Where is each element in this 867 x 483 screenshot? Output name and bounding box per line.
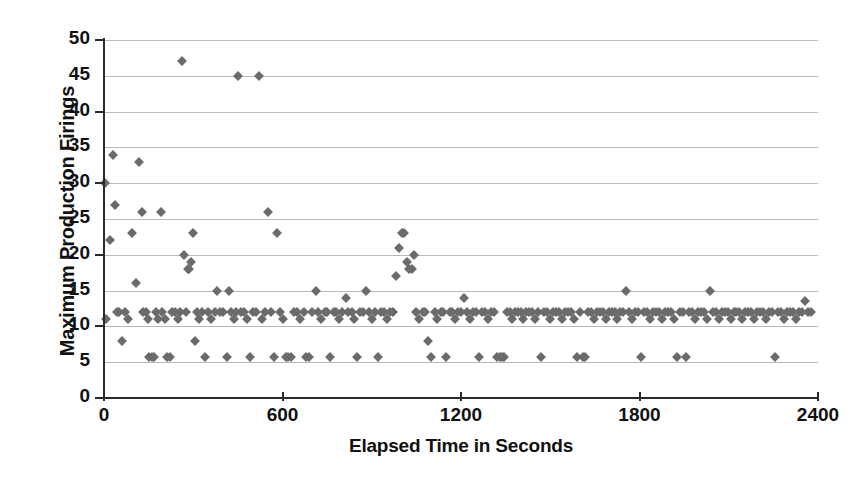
data-point — [349, 314, 359, 324]
gridline-y-25 — [104, 219, 818, 220]
data-point — [105, 236, 115, 246]
data-point — [426, 352, 436, 362]
data-point — [474, 352, 484, 362]
data-point — [143, 314, 153, 324]
data-point — [681, 352, 691, 362]
gridline-y-30 — [104, 183, 818, 184]
data-point — [269, 352, 279, 362]
x-tick-label-2400: 2400 — [783, 404, 853, 426]
x-axis-title: Elapsed Time in Seconds — [104, 435, 818, 461]
x-tick-label-0: 0 — [69, 404, 139, 426]
data-point — [179, 250, 189, 260]
data-point — [224, 286, 234, 296]
data-point — [352, 352, 362, 362]
data-point — [373, 352, 383, 362]
data-point — [131, 278, 141, 288]
gridline-y-45 — [104, 76, 818, 77]
y-tick-label-25: 25 — [44, 206, 90, 228]
data-point — [234, 71, 244, 81]
data-point — [423, 336, 433, 346]
y-tick-40 — [95, 111, 105, 113]
y-tick-label-5: 5 — [44, 349, 90, 371]
data-point — [110, 200, 120, 210]
data-point — [190, 336, 200, 346]
data-point — [569, 314, 579, 324]
data-point — [137, 207, 147, 217]
y-tick-label-30: 30 — [44, 170, 90, 192]
data-point — [800, 296, 810, 306]
data-point — [127, 228, 137, 238]
data-point — [181, 307, 191, 317]
data-point — [459, 293, 469, 303]
x-tick-label-1200: 1200 — [426, 404, 496, 426]
gridline-y-5 — [104, 362, 818, 363]
data-point — [156, 207, 166, 217]
x-tick-label-1800: 1800 — [605, 404, 675, 426]
y-tick-label-20: 20 — [44, 242, 90, 264]
y-tick-label-50: 50 — [44, 27, 90, 49]
x-tick-label-600: 600 — [248, 404, 318, 426]
x-tick-1800 — [639, 392, 641, 401]
y-tick-label-45: 45 — [44, 63, 90, 85]
data-point — [394, 243, 404, 253]
data-point — [325, 352, 335, 362]
x-tick-0 — [103, 392, 105, 401]
data-point — [391, 271, 401, 281]
y-tick-10 — [95, 325, 105, 327]
data-point — [108, 150, 118, 160]
data-point — [441, 352, 451, 362]
y-tick-label-35: 35 — [44, 134, 90, 156]
data-point — [341, 293, 351, 303]
data-point — [160, 314, 170, 324]
y-tick-label-15: 15 — [44, 278, 90, 300]
data-point — [361, 286, 371, 296]
y-tick-label-10: 10 — [44, 313, 90, 335]
data-point — [669, 314, 679, 324]
data-point — [409, 250, 419, 260]
data-point — [188, 228, 198, 238]
data-point — [245, 352, 255, 362]
data-point — [173, 314, 183, 324]
data-point — [134, 157, 144, 167]
data-point — [536, 352, 546, 362]
data-point — [272, 228, 282, 238]
data-point — [254, 71, 264, 81]
data-point — [705, 286, 715, 296]
gridline-y-40 — [104, 112, 818, 113]
data-point — [770, 352, 780, 362]
plot-area — [104, 40, 818, 398]
x-axis-end-cap — [817, 392, 819, 401]
y-tick-label-40: 40 — [44, 99, 90, 121]
data-point — [117, 336, 127, 346]
y-tick-30 — [95, 182, 105, 184]
data-point — [222, 352, 232, 362]
y-tick-20 — [95, 254, 105, 256]
x-tick-1200 — [460, 392, 462, 401]
data-point — [212, 286, 222, 296]
gridline-y-20 — [104, 255, 818, 256]
data-point — [123, 314, 133, 324]
data-point — [636, 352, 646, 362]
x-tick-600 — [282, 392, 284, 401]
data-point — [621, 286, 631, 296]
data-point — [177, 57, 187, 67]
data-point — [311, 286, 321, 296]
data-point — [263, 207, 273, 217]
gridline-y-50 — [104, 40, 818, 41]
gridline-y-10 — [104, 326, 818, 327]
data-point — [200, 352, 210, 362]
y-tick-50 — [95, 39, 105, 41]
gridline-y-35 — [104, 147, 818, 148]
data-point — [242, 314, 252, 324]
scatter-chart-figure: Maximum Production Firings Elapsed Time … — [0, 0, 867, 483]
y-axis-line — [103, 38, 105, 400]
